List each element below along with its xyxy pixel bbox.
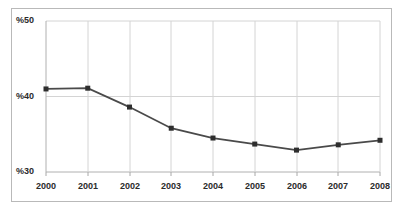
line-chart-plot: [0, 0, 404, 211]
x-tick-label-2006: 2006: [277, 181, 317, 191]
x-tick-label-2008: 2008: [360, 181, 400, 191]
x-tick-label-2004: 2004: [193, 181, 233, 191]
y-tick-label-50: %50: [16, 15, 34, 25]
x-tick-label-2005: 2005: [235, 181, 275, 191]
x-tick-label-2001: 2001: [68, 181, 108, 191]
data-point-2002: [127, 105, 132, 110]
data-point-2007: [336, 142, 341, 147]
data-point-2001: [85, 86, 90, 91]
data-point-2003: [169, 126, 174, 131]
data-point-2008: [378, 138, 383, 143]
data-point-2004: [211, 136, 216, 141]
x-tick-label-2000: 2000: [26, 181, 66, 191]
y-tick-label-40: %40: [16, 91, 34, 101]
data-point-2000: [44, 86, 49, 91]
x-tick-label-2002: 2002: [110, 181, 150, 191]
y-tick-label-30: %30: [16, 166, 34, 176]
x-tick-label-2007: 2007: [318, 181, 358, 191]
chart-figure: %50 %40 %30 2000 2001 2002 2003 2004 200…: [0, 0, 404, 211]
x-tick-label-2003: 2003: [151, 181, 191, 191]
data-point-2006: [294, 148, 299, 153]
data-point-2005: [252, 142, 257, 147]
x-axis-ticks: [46, 172, 380, 176]
